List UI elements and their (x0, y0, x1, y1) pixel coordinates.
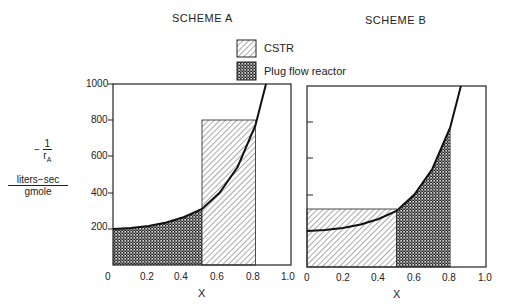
scheme-a-plot (108, 84, 291, 265)
legend-cstr-swatch (237, 40, 256, 57)
scheme-a-pfr-region (113, 209, 202, 265)
legend-pfr-swatch (237, 62, 256, 80)
scheme-b-plot (307, 86, 486, 267)
chart-canvas (0, 0, 505, 308)
